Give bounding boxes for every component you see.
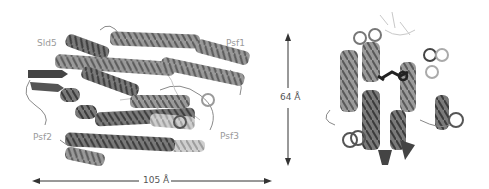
left-structure	[26, 26, 251, 167]
protein-structure-figure: Sld5 Psf1 Psf2 Psf3 105 Å 64 Å	[0, 0, 489, 189]
subunit-label-sld5: Sld5	[37, 38, 57, 48]
subunit-label-psf2: Psf2	[33, 132, 52, 142]
height-dimension-label: 64 Å	[278, 92, 302, 102]
subunit-label-psf1: Psf1	[226, 38, 245, 48]
structure-drawing	[0, 0, 489, 189]
width-dimension-label: 105 Å	[141, 175, 171, 185]
right-structure	[326, 12, 463, 165]
subunit-label-psf3: Psf3	[220, 131, 239, 141]
